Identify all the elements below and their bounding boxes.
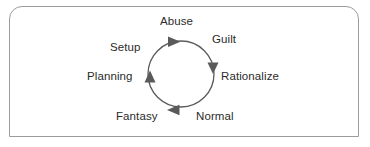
- figure-container: Abuse Guilt Rationalize Normal Fantasy P…: [0, 0, 370, 147]
- arrow-left-icon: [145, 71, 156, 83]
- stage-label-fantasy: Fantasy: [116, 110, 158, 123]
- stage-label-abuse: Abuse: [160, 15, 193, 28]
- stage-label-setup: Setup: [110, 41, 141, 54]
- cycle-circle: [148, 41, 214, 107]
- arrow-top-icon: [168, 37, 181, 48]
- stage-label-rationalize: Rationalize: [221, 70, 279, 83]
- stage-label-planning: Planning: [87, 70, 133, 83]
- stage-label-guilt: Guilt: [212, 33, 236, 46]
- arrow-right-icon: [208, 63, 219, 75]
- stage-label-normal: Normal: [196, 110, 234, 123]
